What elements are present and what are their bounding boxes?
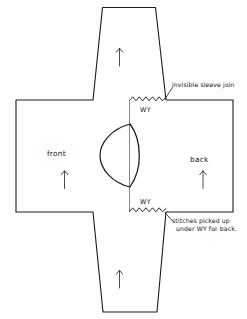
annotation-sleeve-join: invisible sleeve join xyxy=(172,81,235,89)
leader-line-sleeve-join xyxy=(165,88,173,100)
annotation-picked-up-line2: under WY for back. xyxy=(176,225,237,232)
back-panel-label: back xyxy=(190,155,209,164)
schematic-svg: front back WY WY invisible sleeve join s… xyxy=(0,0,247,319)
front-panel-label: front xyxy=(47,149,66,158)
waste-yarn-label-bottom: WY xyxy=(140,198,151,206)
garment-schematic-diagram: front back WY WY invisible sleeve join s… xyxy=(0,0,247,319)
waste-yarn-label-top: WY xyxy=(140,106,151,114)
annotation-picked-up-line1: stitches picked up xyxy=(172,217,230,225)
